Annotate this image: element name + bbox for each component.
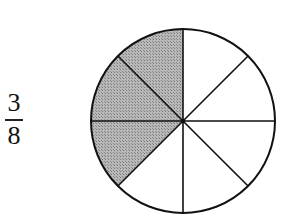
shaded-slice-3	[91, 121, 183, 186]
pie-diagram	[0, 0, 289, 215]
pie-center	[181, 119, 185, 123]
